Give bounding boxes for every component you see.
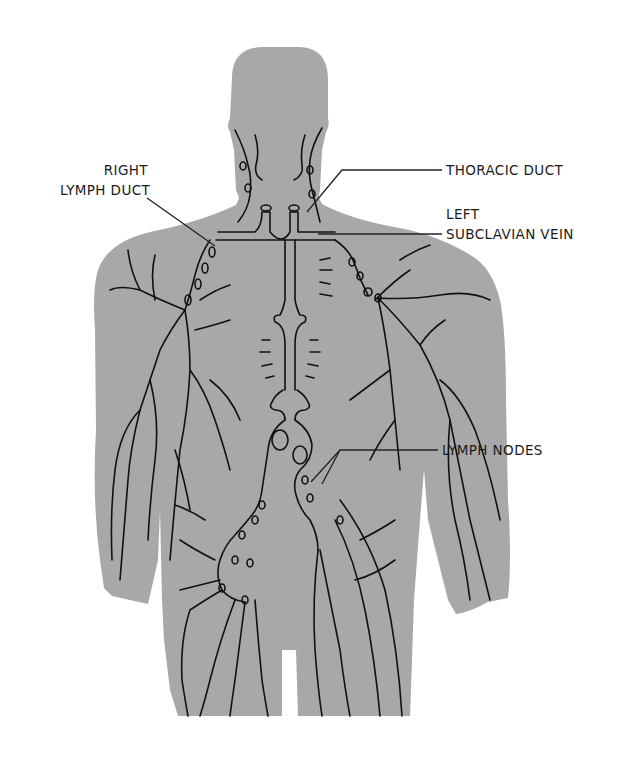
label-thoracic-duct: THORACIC DUCT <box>446 160 563 180</box>
leader-thoracic-duct <box>307 170 442 212</box>
label-lymph-nodes-line1: LYMPH NODES <box>442 440 543 460</box>
label-left-subclavian-vein-line1: LEFT <box>446 204 574 224</box>
label-left-subclavian-vein: LEFT SUBCLAVIAN VEIN <box>446 204 574 244</box>
label-right-lymph-duct: RIGHT LYMPH DUCT <box>60 160 148 200</box>
label-right-lymph-duct-line1: RIGHT <box>60 160 148 180</box>
label-left-subclavian-vein-line2: SUBCLAVIAN VEIN <box>446 224 574 244</box>
label-thoracic-duct-line1: THORACIC DUCT <box>446 160 563 180</box>
lymphatic-system-diagram <box>0 0 637 758</box>
label-lymph-nodes: LYMPH NODES <box>442 440 543 460</box>
label-right-lymph-duct-line2: LYMPH DUCT <box>60 180 148 200</box>
